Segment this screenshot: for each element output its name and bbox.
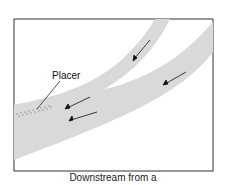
placer-label: Placer bbox=[52, 70, 81, 81]
figure-caption: Downstream from a bbox=[0, 172, 226, 183]
placer-diagram: Placer bbox=[0, 0, 226, 185]
